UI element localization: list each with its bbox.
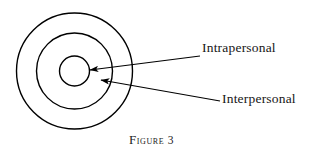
figure-caption-rest: igure: [137, 134, 164, 146]
figure-container: Intrapersonal Interpersonal Figure 3: [0, 0, 325, 154]
figure-caption-number: 3: [168, 134, 174, 146]
label-interpersonal: Interpersonal: [222, 92, 296, 106]
label-intrapersonal: Intrapersonal: [202, 41, 276, 55]
interpersonal-leader-line: [101, 80, 220, 101]
inner-circle: [60, 56, 90, 86]
figure-caption-lead: F: [129, 132, 137, 147]
concentric-circles-diagram: [0, 0, 325, 154]
middle-circle: [37, 33, 113, 109]
intrapersonal-leader-line: [90, 56, 200, 70]
figure-caption: Figure 3: [129, 133, 174, 147]
outer-circle: [17, 13, 133, 129]
